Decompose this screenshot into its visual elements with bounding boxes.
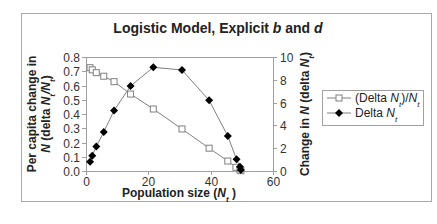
left-y-tick-label: 0.0 — [63, 165, 80, 179]
x-tick-label: 0 — [83, 175, 90, 189]
x-tick-label: 60 — [267, 175, 281, 189]
left-y-tick-label: 0.5 — [63, 94, 80, 108]
right-y-tick-label: 8 — [280, 74, 287, 88]
data-point-square — [101, 73, 107, 79]
data-point-square — [150, 106, 156, 112]
left-y-tick-label: 0.8 — [63, 51, 80, 65]
right-y-tick-label: 0 — [280, 165, 287, 179]
data-point-square — [206, 145, 212, 151]
left-y-tick-label: 0.1 — [63, 151, 80, 165]
left-y-tick-label: 0.2 — [63, 137, 80, 151]
left-y-tick-label: 0.7 — [63, 65, 80, 79]
chart-title: Logistic Model, Explicit b and d — [113, 20, 323, 36]
data-point-square — [179, 126, 185, 132]
left-y-tick-label: 0.3 — [63, 122, 80, 136]
right-y-tick-label: 6 — [280, 97, 287, 111]
data-point-square — [93, 70, 99, 76]
left-y-tick-label: 0.4 — [63, 108, 80, 122]
left-y-tick-label: 0.6 — [63, 80, 80, 94]
right-y-tick-label: 2 — [280, 142, 287, 156]
right-y-tick-label: 4 — [280, 119, 287, 133]
left-y-axis-title-line: Per capita change in — [25, 56, 39, 173]
chart: Logistic Model, Explicit b and d 0.00.10… — [0, 0, 437, 224]
legend: (Delta Nt)/NtDelta Nt — [323, 91, 424, 126]
legend-square-marker-icon — [336, 95, 342, 101]
data-point-square — [225, 158, 231, 164]
data-point-square — [111, 79, 117, 85]
data-point-square — [128, 91, 134, 97]
right-y-tick-label: 10 — [280, 51, 294, 65]
